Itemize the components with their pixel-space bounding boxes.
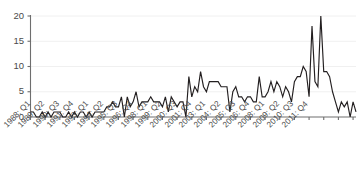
line-chart: 05101520 1988: Q11989: Q21990: Q31991: Q… bbox=[0, 0, 359, 187]
y-axis-tick-label: 20 bbox=[2, 11, 24, 21]
y-axis-tick-label: 15 bbox=[2, 36, 24, 46]
y-axis-tick-label: 5 bbox=[2, 86, 24, 96]
y-axis-tick-label: 10 bbox=[2, 61, 24, 71]
chart-plot-area bbox=[0, 0, 359, 187]
